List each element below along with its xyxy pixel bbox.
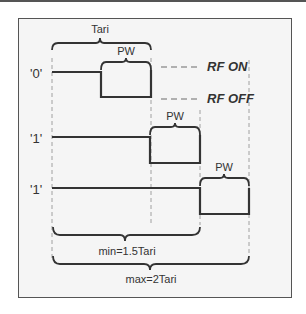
- pw-label-row0: PW: [117, 45, 135, 57]
- row1-symbol: '1': [30, 131, 42, 146]
- min-label: min=1.5Tari: [98, 245, 155, 257]
- row2-symbol: '1': [30, 182, 42, 197]
- pw-label-row1: PW: [166, 110, 184, 122]
- max-label: max=2Tari: [125, 273, 176, 285]
- row0-symbol: '0': [30, 66, 42, 81]
- pw-label-row2: PW: [215, 161, 233, 173]
- rf-off-label: RF OFF: [207, 91, 255, 106]
- rf-on-label: RF ON: [207, 59, 248, 74]
- tari-label: Tari: [91, 23, 109, 35]
- pie-timing-diagram: RF ON RF OFF Tari PW '0' PW '1' PW '1' m…: [0, 0, 306, 314]
